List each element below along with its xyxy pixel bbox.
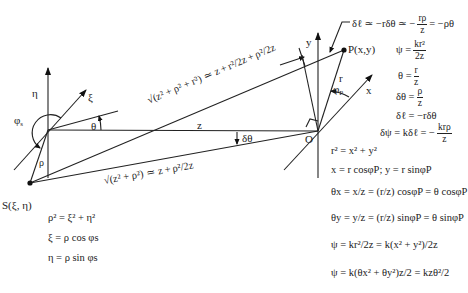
delta-theta-label: δθ bbox=[242, 133, 252, 144]
frac-den: z bbox=[442, 134, 446, 144]
delta-ell-fraction: rρz bbox=[417, 14, 427, 35]
equation-psi: ψ = kr²2z bbox=[396, 40, 428, 61]
delta-ell-annotation: δℓ ≃ −rδθ ≃ − rρz = −ρθ bbox=[352, 14, 454, 35]
equation-theta-x: θx = x/z = (r/z) cosφP = θ cosφP bbox=[331, 187, 467, 198]
equation-rho-squared: ρ² = ξ² + η² bbox=[48, 213, 95, 224]
upper-path-tick bbox=[299, 48, 305, 66]
lower-path-term-z: z bbox=[157, 166, 163, 177]
source-point-label: S(ξ, η) bbox=[2, 200, 32, 211]
phi-s-subscript: s bbox=[20, 120, 23, 128]
delta-ell-pointer bbox=[330, 22, 350, 52]
frac-den: z bbox=[418, 98, 422, 108]
equation-psi-theta: ψ = k(θx² + θy²)z/2 = kzθ²/2 bbox=[331, 268, 449, 279]
eta-axis-label: η bbox=[32, 88, 38, 99]
eq-fraction: ρz bbox=[417, 87, 424, 108]
frac-num: r bbox=[414, 66, 419, 77]
y-axis-label: y bbox=[306, 37, 312, 48]
phi-p-subscript: P bbox=[339, 89, 343, 97]
equation-theta: θ = rz bbox=[398, 66, 421, 87]
theta-arc bbox=[99, 116, 101, 130]
frac-den: z bbox=[420, 25, 424, 35]
phi-s-label: φs bbox=[14, 115, 23, 126]
equation-psi-xy: ψ = kr²/2z = k(x² + y²)/2z bbox=[331, 240, 438, 251]
phi-p-label: φP bbox=[333, 84, 343, 95]
equation-delta-psi: δψ = kδℓ = − krρz bbox=[380, 123, 454, 144]
frac-den: 2z bbox=[415, 51, 424, 61]
equation-theta-y: θy = y/z = (r/z) sinφP = θ sinφP bbox=[331, 213, 464, 224]
frac-num: ρ bbox=[417, 87, 424, 98]
eq-fraction: kr²2z bbox=[413, 40, 426, 61]
eq-lhs: δθ = bbox=[396, 92, 415, 103]
observation-point-label: P(x,y) bbox=[348, 44, 375, 55]
frac-num: rρ bbox=[417, 14, 427, 25]
eq-fraction: krρz bbox=[437, 123, 452, 144]
lower-path-plus: + bbox=[164, 164, 172, 175]
lower-path-approx: ≃ bbox=[146, 167, 157, 179]
equation-r-squared: r² = x² + y² bbox=[331, 146, 377, 157]
eq-lhs: θ = bbox=[398, 71, 412, 82]
delta-ell-text-a: δℓ ≃ −rδθ ≃ − bbox=[352, 19, 415, 30]
equation-eta: η = ρ sin φs bbox=[48, 253, 98, 264]
source-point-dot bbox=[27, 180, 32, 185]
equation-xy-polar: x = r cosφP; y = r sinφP bbox=[331, 165, 432, 176]
equation-xi: ξ = ρ cos φs bbox=[48, 233, 99, 244]
frac-num: kr² bbox=[413, 40, 426, 51]
eq-lhs: δψ = kδℓ = − bbox=[380, 128, 435, 139]
eq-lhs: ψ = bbox=[396, 45, 411, 56]
origin-label: O bbox=[305, 134, 313, 145]
upper-path-dimension-arrow bbox=[280, 57, 304, 65]
r-label: r bbox=[339, 73, 343, 84]
xi-axis-label: ξ bbox=[88, 92, 93, 103]
phi-s-arc bbox=[32, 115, 61, 148]
z-label: z bbox=[197, 120, 202, 131]
eq-fraction: rz bbox=[414, 66, 419, 87]
s-to-o-line bbox=[30, 131, 318, 183]
frac-num: krρ bbox=[437, 123, 452, 134]
equation-delta-theta: δθ = ρz bbox=[396, 87, 425, 108]
theta-label: θ bbox=[91, 121, 96, 132]
z-axis-line bbox=[48, 130, 318, 131]
observation-point-dot bbox=[341, 47, 346, 52]
eq-lhs: δℓ = −rδθ bbox=[396, 111, 437, 122]
rho-label: ρ bbox=[39, 158, 44, 168]
equation-delta-ell: δℓ = −rδθ bbox=[396, 111, 437, 122]
x-axis-label: x bbox=[366, 85, 372, 96]
delta-ell-text-b: = −ρθ bbox=[429, 19, 454, 30]
